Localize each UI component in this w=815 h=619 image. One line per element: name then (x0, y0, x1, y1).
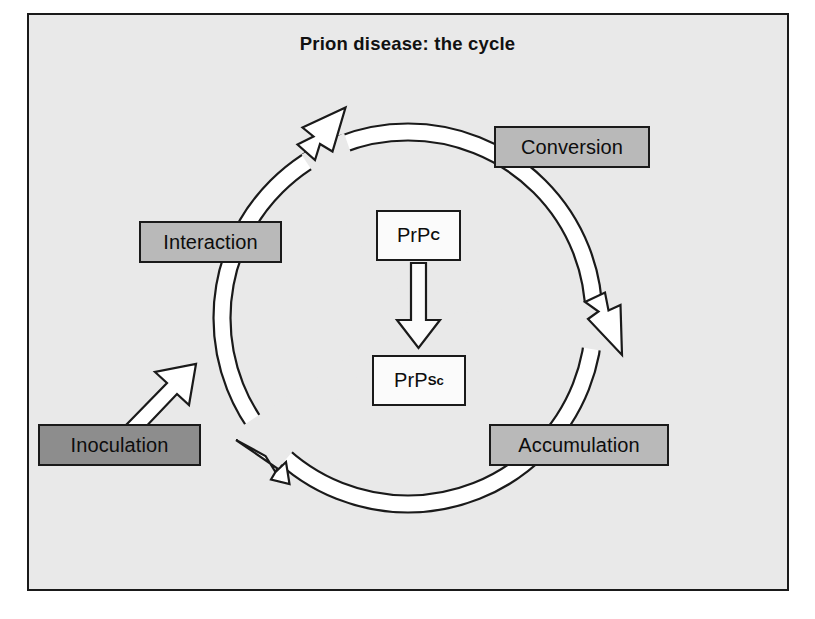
cycle-node-accumulation-label: Accumulation (518, 434, 639, 457)
figure-container: Prion disease: the cycle Conver (0, 0, 815, 619)
cycle-diagram (0, 0, 815, 619)
prp-sc-base: PrP (394, 369, 428, 392)
protein-node-prp-sc[interactable]: PrPSc (372, 355, 466, 406)
cycle-node-interaction[interactable]: Interaction (139, 221, 282, 263)
cycle-node-conversion-label: Conversion (521, 136, 623, 159)
prp-c-base: PrP (397, 224, 431, 247)
cycle-node-conversion[interactable]: Conversion (494, 126, 650, 168)
ribbon-gap-right (408, 300, 609, 352)
cycle-node-inoculation-label: Inoculation (71, 434, 169, 457)
cycle-node-accumulation[interactable]: Accumulation (489, 424, 669, 466)
cycle-node-interaction-label: Interaction (163, 231, 258, 254)
cycle-node-inoculation[interactable]: Inoculation (38, 424, 201, 466)
protein-node-prp-c[interactable]: PrPC (376, 210, 461, 261)
